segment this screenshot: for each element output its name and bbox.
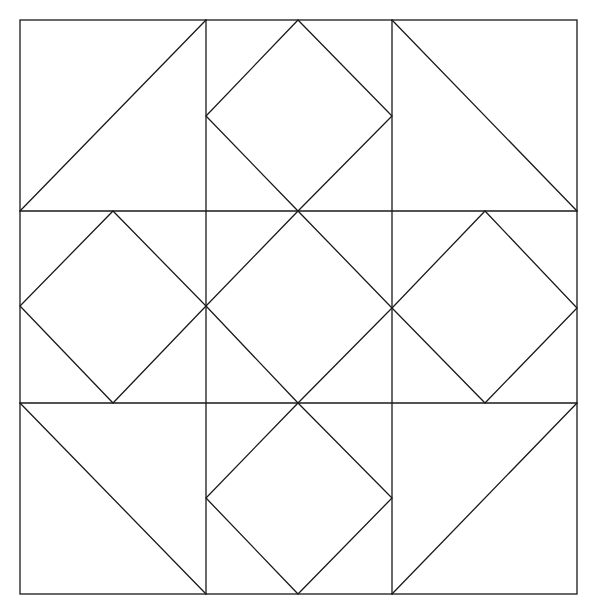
cell-top-left-diagonal xyxy=(20,20,206,211)
cell-top-center-diamond xyxy=(206,20,392,211)
cell-bottom-left-diagonal xyxy=(20,403,206,594)
cell-bottom-right-diagonal xyxy=(392,403,577,594)
outer-square xyxy=(20,20,577,594)
grid-lines xyxy=(20,20,577,594)
cell-middle-right-diamond xyxy=(392,211,577,403)
cell-middle-center-diamond xyxy=(206,211,392,403)
outer-border xyxy=(20,20,577,594)
quilt-cells xyxy=(20,20,577,594)
cell-top-right-diagonal xyxy=(392,20,577,211)
cell-bottom-center-diamond xyxy=(206,403,392,594)
cell-middle-left-diamond xyxy=(20,211,206,403)
quilt-block-diagram xyxy=(0,0,597,615)
